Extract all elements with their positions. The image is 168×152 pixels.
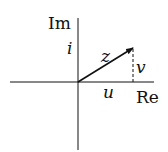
v-label: v [136, 57, 146, 77]
imag-axis-label: Im [48, 13, 71, 33]
complex-plane-diagram: Im i z v u Re [0, 0, 168, 152]
real-axis-label: Re [136, 87, 159, 107]
u-label: u [103, 82, 114, 102]
vector-z-label: z [100, 46, 111, 66]
unit-i-label: i [67, 38, 72, 58]
